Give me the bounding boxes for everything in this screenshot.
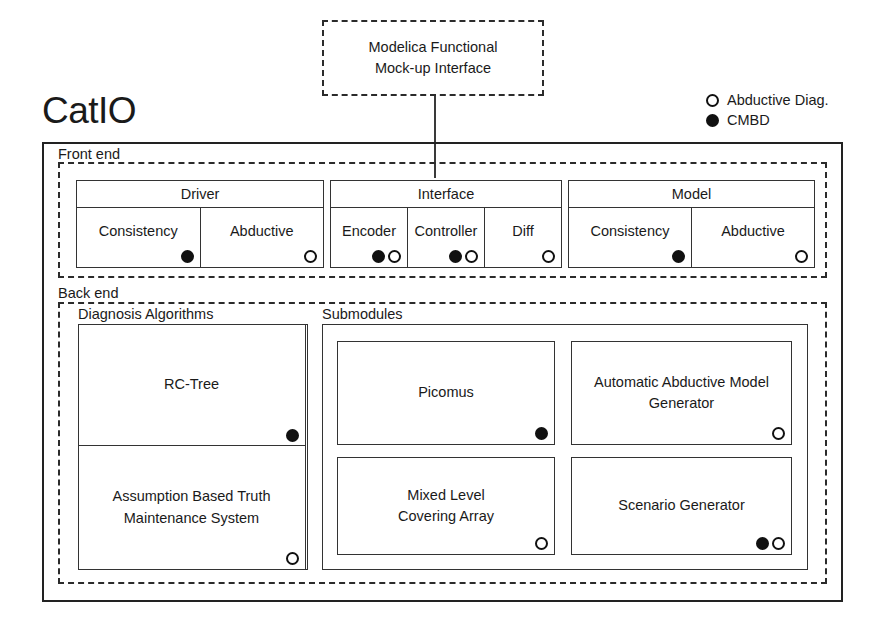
marker-group xyxy=(672,250,685,263)
module-label: Controller xyxy=(415,223,478,239)
module-cell-rc-tree[interactable]: RC-Tree xyxy=(78,324,306,447)
backend-container: Diagnosis Algorithms RC-Tree Assumption … xyxy=(58,302,827,584)
hollow-circle-icon xyxy=(286,552,299,565)
legend-label: Abductive Diag. xyxy=(727,92,829,108)
module-label: Encoder xyxy=(342,223,396,239)
module-cell-model-abductive[interactable]: Abductive xyxy=(691,208,814,267)
marker-group xyxy=(795,250,808,263)
filled-circle-icon xyxy=(706,114,719,127)
module-label: RC-Tree xyxy=(164,374,219,395)
filled-circle-icon xyxy=(535,427,548,440)
marker-group xyxy=(181,250,194,263)
filled-circle-icon xyxy=(672,250,685,263)
marker-group xyxy=(286,429,299,442)
backend-label: Back end xyxy=(58,285,118,301)
marker-group xyxy=(756,537,785,550)
hollow-circle-icon xyxy=(388,250,401,263)
module-cell-automatic-abductive-model-generator[interactable]: Automatic Abductive ModelGenerator xyxy=(571,341,792,445)
hollow-circle-icon xyxy=(772,537,785,550)
frontend-group-driver: Driver Consistency Abductive xyxy=(76,180,324,268)
legend-item-abductive: Abductive Diag. xyxy=(706,90,876,110)
marker-group xyxy=(286,552,299,565)
filled-circle-icon xyxy=(756,537,769,550)
group-title: Interface xyxy=(331,181,561,208)
module-cell-driver-abductive[interactable]: Abductive xyxy=(200,208,324,267)
module-cell-driver-consistency[interactable]: Consistency xyxy=(77,208,200,267)
group-title: Model xyxy=(569,181,814,208)
module-label: Mixed LevelCovering Array xyxy=(398,485,494,527)
frontend-group-model: Model Consistency Abductive xyxy=(568,180,815,268)
module-label: Abductive xyxy=(721,223,785,239)
filled-circle-icon xyxy=(181,250,194,263)
module-cell-controller[interactable]: Controller xyxy=(407,208,484,267)
legend-item-cmbd: CMBD xyxy=(706,110,876,130)
module-label: Picomus xyxy=(418,382,474,403)
marker-group xyxy=(372,250,401,263)
diagnosis-algorithms-label: Diagnosis Algorithms xyxy=(78,306,213,322)
hollow-circle-icon xyxy=(542,250,555,263)
module-label: Diff xyxy=(512,223,534,239)
diagnosis-algorithms-group: RC-Tree Assumption Based TruthMaintenanc… xyxy=(78,324,308,570)
hollow-circle-icon xyxy=(795,250,808,263)
page-title: CatIO xyxy=(42,90,136,132)
module-label: Consistency xyxy=(99,223,178,239)
module-cell-atms[interactable]: Assumption Based TruthMaintenance System xyxy=(78,445,306,570)
hollow-circle-icon xyxy=(772,427,785,440)
module-cell-diff[interactable]: Diff xyxy=(484,208,561,267)
legend-label: CMBD xyxy=(727,112,770,128)
module-cell-scenario-generator[interactable]: Scenario Generator xyxy=(571,457,792,555)
marker-group xyxy=(535,537,548,550)
module-cell-model-consistency[interactable]: Consistency xyxy=(569,208,691,267)
modelica-fmi-box: Modelica FunctionalMock-up Interface xyxy=(322,20,544,96)
module-label: Automatic Abductive ModelGenerator xyxy=(594,372,769,414)
hollow-circle-icon xyxy=(706,94,719,107)
module-label: Scenario Generator xyxy=(618,495,745,516)
marker-group xyxy=(772,427,785,440)
module-label: Abductive xyxy=(230,223,294,239)
module-cell-encoder[interactable]: Encoder xyxy=(331,208,407,267)
group-title: Driver xyxy=(77,181,323,208)
legend: Abductive Diag. CMBD xyxy=(706,90,876,130)
hollow-circle-icon xyxy=(535,537,548,550)
marker-group xyxy=(542,250,555,263)
marker-group xyxy=(304,250,317,263)
hollow-circle-icon xyxy=(304,250,317,263)
module-cell-picomus[interactable]: Picomus xyxy=(337,341,555,445)
frontend-group-interface: Interface Encoder Controller Diff xyxy=(330,180,562,268)
hollow-circle-icon xyxy=(465,250,478,263)
module-label: Consistency xyxy=(591,223,670,239)
filled-circle-icon xyxy=(449,250,462,263)
filled-circle-icon xyxy=(372,250,385,263)
module-cell-mixed-level-covering-array[interactable]: Mixed LevelCovering Array xyxy=(337,457,555,555)
module-label: Assumption Based TruthMaintenance System xyxy=(113,486,271,528)
frontend-label: Front end xyxy=(58,146,120,162)
marker-group xyxy=(535,427,548,440)
submodules-label: Submodules xyxy=(322,306,403,322)
marker-group xyxy=(449,250,478,263)
filled-circle-icon xyxy=(286,429,299,442)
modelica-fmi-label: Modelica FunctionalMock-up Interface xyxy=(369,37,498,79)
submodules-group: Picomus Automatic Abductive ModelGenerat… xyxy=(322,324,808,570)
frontend-container: Driver Consistency Abductive Interface E… xyxy=(58,162,827,278)
